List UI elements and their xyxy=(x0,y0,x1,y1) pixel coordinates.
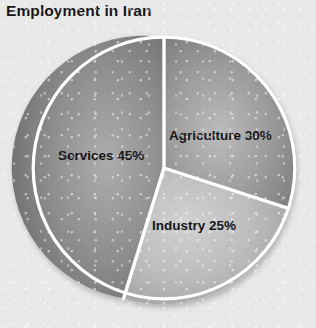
chart-title: Employment in Iran xyxy=(6,2,152,20)
pie-chart xyxy=(34,38,294,298)
pie-label-agriculture: Agriculture 30% xyxy=(169,128,272,143)
pie-chart-svg xyxy=(34,38,294,298)
pie-label-industry: Industry 25% xyxy=(152,218,236,233)
pie-label-services: Services 45% xyxy=(58,148,144,163)
